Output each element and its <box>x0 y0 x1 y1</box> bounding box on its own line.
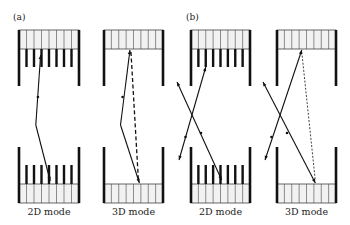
random-coincidence-paths <box>177 67 222 180</box>
top-detector-array <box>19 30 79 86</box>
annihilation-point <box>270 136 273 139</box>
2d-mode-schematic <box>19 30 79 203</box>
top-detector-array <box>191 30 250 86</box>
arrowhead-icon <box>179 156 182 160</box>
3d-mode-schematic <box>104 30 163 203</box>
photon-track <box>36 125 50 181</box>
panel-tag: (b) <box>186 12 199 22</box>
top-detector-array <box>277 30 336 86</box>
scattered-photon-path <box>36 55 51 181</box>
bottom-detector-array <box>104 147 163 203</box>
arrowhead-icon <box>265 156 268 160</box>
3d-mode-label: 3D mode <box>285 206 328 217</box>
photon-track <box>36 55 41 125</box>
3d-mode-label: 3D mode <box>112 206 155 217</box>
random-coincidence-paths <box>263 50 315 183</box>
photon-track <box>265 50 302 160</box>
arrowhead-icon <box>263 82 266 86</box>
arrowhead-icon <box>203 67 206 71</box>
annihilation-point <box>121 96 124 99</box>
pet-acquisition-modes-diagram <box>0 0 350 225</box>
annihilation-point <box>200 132 203 135</box>
2d-mode-label: 2D mode <box>27 206 70 217</box>
panel-tag: (a) <box>13 12 25 22</box>
bottom-detector-array <box>277 147 336 203</box>
3d-mode-schematic <box>263 30 336 203</box>
photon-track <box>179 67 206 160</box>
2d-mode-schematic <box>177 30 250 203</box>
photon-track <box>121 50 130 125</box>
photon-track <box>121 125 140 183</box>
bottom-detector-array <box>191 147 250 203</box>
photon-track <box>263 82 315 183</box>
annihilation-point <box>37 96 40 99</box>
panel-b <box>177 30 336 203</box>
annihilation-point <box>286 132 289 135</box>
panel-a <box>19 30 163 203</box>
annihilation-point <box>184 136 187 139</box>
arrowhead-icon <box>177 82 180 86</box>
top-detector-array <box>104 30 163 86</box>
2d-mode-label: 2D mode <box>199 206 242 217</box>
